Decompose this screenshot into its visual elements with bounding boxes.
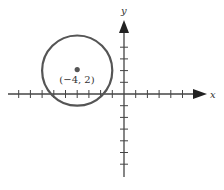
- y-axis-arrow-icon: [119, 20, 129, 33]
- x-axis-arrow-icon: [193, 89, 207, 99]
- center-point-label: (−4, 2): [59, 74, 94, 85]
- y-axis-label: y: [120, 5, 127, 16]
- coordinate-plane-diagram: x y (−4, 2): [0, 0, 224, 190]
- center-point: [75, 67, 80, 72]
- x-axis-label: x: [210, 89, 216, 100]
